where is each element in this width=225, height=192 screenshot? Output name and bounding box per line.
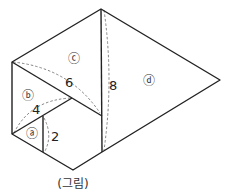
figure-caption: (그림) bbox=[0, 174, 146, 191]
length-label-8: 8 bbox=[109, 78, 117, 93]
edge-8 bbox=[101, 9, 102, 152]
region-label-c: ⓒ bbox=[68, 52, 80, 66]
region-label-b: ⓑ bbox=[22, 89, 34, 103]
golden-spiral-squares-diagram: ⓐ ⓑ ⓒ ⓓ 2 4 6 8 bbox=[0, 0, 225, 192]
edge-4 bbox=[12, 98, 72, 134]
length-label-6: 6 bbox=[65, 75, 73, 90]
region-label-d: ⓓ bbox=[143, 74, 155, 88]
region-label-a: ⓐ bbox=[26, 127, 38, 141]
arc-a bbox=[44, 118, 49, 151]
length-label-4: 4 bbox=[32, 102, 40, 117]
length-label-2: 2 bbox=[51, 129, 59, 144]
